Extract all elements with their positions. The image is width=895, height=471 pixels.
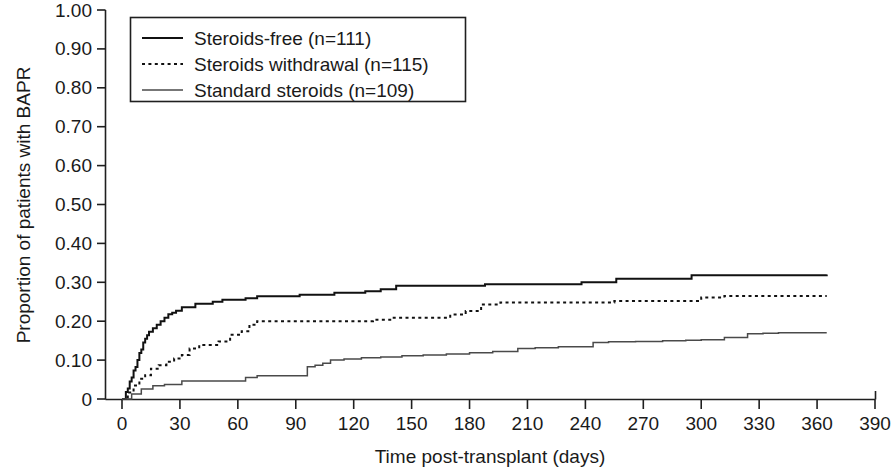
x-tick-label: 150	[396, 413, 428, 434]
y-tick-label: 0.10	[55, 350, 92, 371]
legend: Steroids-free (n=111)Steroids withdrawal…	[131, 18, 466, 102]
series-line-2	[122, 296, 827, 399]
x-tick-label: 300	[685, 413, 717, 434]
x-tick-label: 210	[512, 413, 544, 434]
y-axis-ticks	[97, 10, 106, 399]
y-axis-title: Proportion of patients with BAPR	[13, 67, 34, 344]
series-line-1	[122, 275, 827, 399]
y-tick-label: 0.70	[55, 116, 92, 137]
series-line-3	[122, 333, 827, 399]
x-tick-label: 90	[285, 413, 306, 434]
x-tick-label: 270	[627, 413, 659, 434]
legend-label-3: Standard steroids (n=109)	[194, 80, 414, 101]
y-axis-tick-labels: 00.100.200.300.400.500.600.700.800.901.0…	[55, 0, 92, 410]
y-tick-label: 0.80	[55, 77, 92, 98]
legend-label-1: Steroids-free (n=111)	[194, 28, 371, 49]
x-tick-label: 330	[743, 413, 775, 434]
x-tick-label: 60	[227, 413, 248, 434]
x-tick-label: 30	[169, 413, 190, 434]
x-tick-label: 120	[338, 413, 370, 434]
x-tick-label: 390	[859, 413, 891, 434]
x-tick-label: 0	[117, 413, 128, 434]
y-tick-label: 1.00	[55, 0, 92, 21]
y-tick-label: 0.40	[55, 233, 92, 254]
series-paths-group	[122, 275, 827, 399]
x-axis-title: Time post-transplant (days)	[375, 446, 606, 467]
x-tick-label: 240	[570, 413, 602, 434]
y-tick-label: 0.20	[55, 311, 92, 332]
chart-canvas: 00.100.200.300.400.500.600.700.800.901.0…	[0, 0, 895, 471]
x-axis-ticks	[122, 400, 875, 410]
legend-label-2: Steroids withdrawal (n=115)	[194, 54, 429, 75]
y-tick-label: 0.90	[55, 38, 92, 59]
kaplan-meier-figure: 00.100.200.300.400.500.600.700.800.901.0…	[0, 0, 895, 471]
y-tick-label: 0.50	[55, 194, 92, 215]
x-tick-label: 360	[801, 413, 833, 434]
y-tick-label: 0.60	[55, 155, 92, 176]
y-tick-label: 0.30	[55, 272, 92, 293]
y-tick-label: 0	[81, 389, 92, 410]
x-axis-tick-labels: 0306090120150180210240270300330360390	[117, 413, 891, 434]
x-tick-label: 180	[454, 413, 486, 434]
